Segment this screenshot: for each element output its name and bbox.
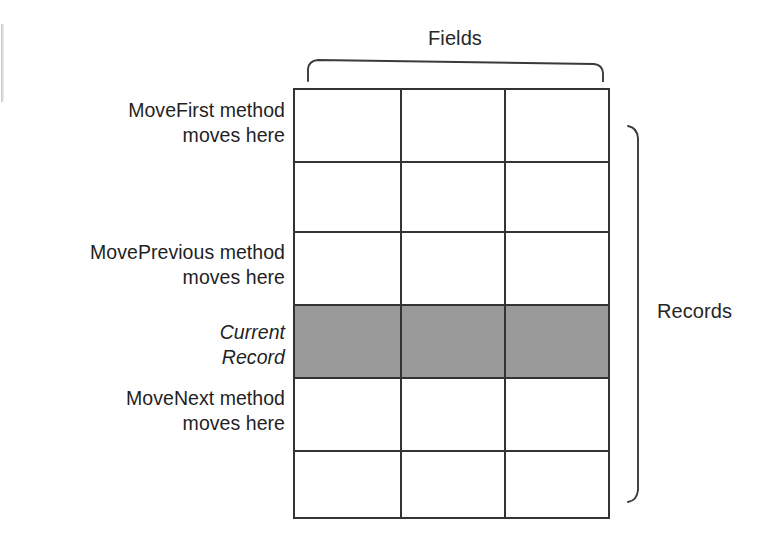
callout-current-record-line2: Record: [55, 345, 285, 370]
scan-edge-artifact: [1, 24, 4, 102]
callout-movenext-line1: MoveNext method: [35, 386, 285, 411]
callout-movefirst-line2: moves here: [35, 123, 285, 148]
records-label: Records: [657, 298, 732, 324]
callout-movenext: MoveNext method moves here: [35, 386, 285, 436]
records-bracket-icon: [624, 124, 648, 504]
callout-movefirst-line1: MoveFirst method: [35, 98, 285, 123]
fields-label: Fields: [369, 26, 541, 50]
callout-moveprevious: MovePrevious method moves here: [25, 240, 285, 290]
diagram-canvas: Fields MoveFirst method moves here M: [0, 0, 767, 552]
callout-movefirst: MoveFirst method moves here: [35, 98, 285, 148]
callout-current-record-line1: Current: [55, 320, 285, 345]
current-record-row-highlight: [294, 305, 609, 378]
callout-movenext-line2: moves here: [35, 411, 285, 436]
fields-bracket-icon: [306, 56, 606, 82]
callout-moveprevious-line2: moves here: [25, 265, 285, 290]
callout-current-record: Current Record: [55, 320, 285, 370]
callout-moveprevious-line1: MovePrevious method: [25, 240, 285, 265]
record-grid: [293, 88, 610, 519]
